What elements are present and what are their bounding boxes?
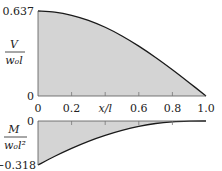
svg-text:0.8: 0.8 (164, 102, 182, 115)
top-ylabel-num: V (10, 38, 19, 51)
svg-text:0: 0 (35, 102, 42, 115)
bottom-ymax-label: 0 (27, 115, 34, 128)
top-ymax-label: 0.637 (3, 5, 35, 18)
shear-moment-diagram: 0.637 0 V w₀l 0 0.2 x/l 0.6 0.8 1.0 0 −0… (0, 0, 222, 171)
bottom-ylabel-num: M (7, 123, 20, 136)
moment-area (38, 121, 206, 165)
svg-text:0.2: 0.2 (63, 102, 81, 115)
bottom-ylabel-den: w₀l² (4, 139, 26, 152)
x-tick-labels: 0 0.2 x/l 0.6 0.8 1.0 (35, 102, 215, 115)
svg-text:1.0: 1.0 (197, 102, 215, 115)
svg-text:x/l: x/l (98, 102, 112, 115)
shear-area (38, 11, 206, 96)
top-ymin-label: 0 (27, 90, 34, 103)
top-ylabel-den: w₀l (5, 54, 23, 67)
svg-text:0.6: 0.6 (130, 102, 148, 115)
bottom-ymin-label: −0.318 (0, 159, 36, 171)
